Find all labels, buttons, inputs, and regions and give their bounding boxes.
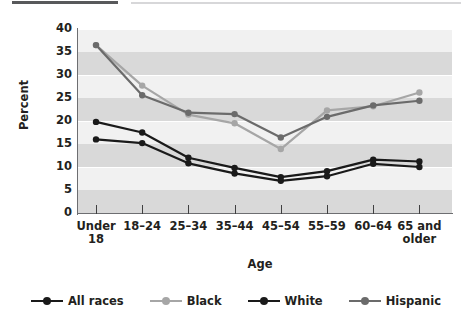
data-point: [139, 92, 145, 98]
data-point: [416, 158, 422, 164]
data-point: [231, 111, 237, 117]
legend-item: All races: [31, 294, 124, 308]
legend-label: Hispanic: [386, 294, 441, 308]
x-tick-mark: [188, 205, 189, 214]
x-tick-mark: [96, 205, 97, 214]
x-tick-mark: [142, 205, 143, 214]
legend-marker-icon: [361, 297, 369, 305]
data-point: [139, 129, 145, 135]
legend-swatch: [150, 296, 182, 306]
data-point: [231, 165, 237, 171]
legend-marker-icon: [162, 297, 170, 305]
data-point: [416, 98, 422, 104]
legend-swatch: [31, 296, 63, 306]
series-line: [96, 45, 419, 137]
chart-legend: All racesBlackWhiteHispanic: [0, 294, 472, 308]
x-axis-title: Age: [0, 257, 472, 271]
data-point: [231, 120, 237, 126]
data-point: [278, 134, 284, 140]
legend-label: White: [285, 294, 323, 308]
legend-marker-icon: [260, 297, 268, 305]
data-point: [231, 170, 237, 176]
x-tick-mark: [281, 205, 282, 214]
data-point: [278, 178, 284, 184]
data-point: [278, 146, 284, 152]
series-line: [96, 122, 419, 177]
data-point: [324, 114, 330, 120]
x-tick-mark: [327, 205, 328, 214]
data-point: [185, 160, 191, 166]
data-point: [93, 119, 99, 125]
data-point: [324, 107, 330, 113]
data-point: [139, 82, 145, 88]
data-point: [93, 42, 99, 48]
data-point: [93, 136, 99, 142]
legend-swatch: [248, 296, 280, 306]
x-tick-mark: [419, 205, 420, 214]
legend-item: White: [248, 294, 323, 308]
series-svg: [0, 0, 472, 327]
legend-marker-icon: [43, 297, 51, 305]
x-tick-label: 65 andolder: [384, 220, 454, 246]
legend-swatch: [349, 296, 381, 306]
legend-item: Black: [150, 294, 222, 308]
data-point: [370, 102, 376, 108]
legend-item: Hispanic: [349, 294, 441, 308]
legend-label: Black: [187, 294, 222, 308]
data-point: [185, 110, 191, 116]
line-chart: 0510152025303540 Percent Under1818–2425–…: [0, 0, 472, 327]
data-point: [139, 140, 145, 146]
data-point: [416, 164, 422, 170]
data-point: [416, 89, 422, 95]
data-point: [370, 161, 376, 167]
data-point: [185, 155, 191, 161]
x-tick-mark: [235, 205, 236, 214]
legend-label: All races: [68, 294, 124, 308]
data-point: [324, 173, 330, 179]
x-tick-mark: [373, 205, 374, 214]
